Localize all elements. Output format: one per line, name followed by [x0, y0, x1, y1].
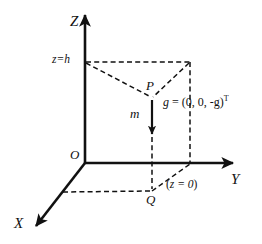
- x-axis-line: [36, 163, 85, 226]
- ground-dashed-line-x-to-q: [63, 191, 151, 192]
- point-p-label: P: [146, 79, 154, 92]
- ground-plane-text: z = 0: [170, 178, 194, 190]
- ground-plane-paren-close: ): [194, 178, 198, 190]
- dashed-edge-zh-to-p: [86, 63, 151, 97]
- z-axis-label: Z: [70, 14, 78, 29]
- x-axis-label: X: [14, 216, 23, 231]
- gravity-components: (0, 0, -g): [182, 95, 224, 109]
- gravity-transpose-superscript: T: [224, 94, 229, 103]
- gravity-equals-sign: =: [169, 95, 182, 109]
- origin-label: O: [70, 148, 79, 161]
- gravity-equation-label: g = (0, 0, -g)T: [163, 95, 229, 108]
- mass-label: m: [130, 107, 139, 120]
- dashed-edge-corner-to-p: [153, 63, 189, 97]
- height-label: z=h: [52, 54, 70, 66]
- ground-plane-label: (z = 0): [166, 179, 197, 191]
- figure-container: Z Y X O z=h P Q m (z = 0) g = (0, 0, -g)…: [0, 0, 262, 244]
- point-q-label: Q: [146, 193, 155, 206]
- coordinate-axes-diagram: [0, 0, 262, 244]
- y-axis-label: Y: [231, 172, 239, 187]
